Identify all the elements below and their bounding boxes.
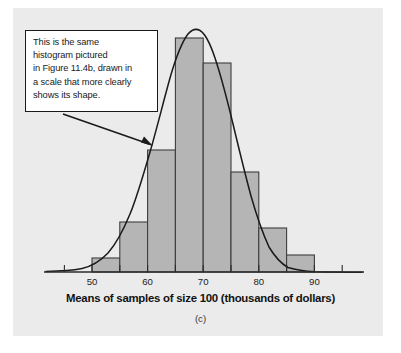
x-tick-label-60: 60 <box>142 276 153 287</box>
callout-line-4: a scale that more clearly <box>33 76 150 89</box>
bar-85-90 <box>287 255 315 272</box>
callout-annotation-box: This is the same histogram pictured in F… <box>25 30 158 112</box>
x-tick-label-90: 90 <box>309 276 320 287</box>
bar-55-60 <box>120 222 148 272</box>
bar-50-55 <box>92 258 120 272</box>
bar-75-80 <box>231 172 259 272</box>
x-tick-label-50: 50 <box>87 276 98 287</box>
bar-60-65 <box>148 150 176 272</box>
bar-65-70 <box>175 38 203 272</box>
bar-70-75 <box>203 63 231 272</box>
figure-caption: (c) <box>0 313 401 324</box>
callout-arrow <box>63 114 153 146</box>
x-tick-label-80: 80 <box>253 276 264 287</box>
x-axis-title: Means of samples of size 100 (thousands … <box>0 292 401 304</box>
callout-line-5: shows its shape. <box>33 89 150 102</box>
figure-root: This is the same histogram pictured in F… <box>0 0 401 353</box>
callout-line-2: histogram pictured <box>33 49 150 62</box>
callout-line-1: This is the same <box>33 36 150 49</box>
x-tick-label-70: 70 <box>198 276 209 287</box>
callout-line-3: in Figure 11.4b, drawn in <box>33 62 150 75</box>
